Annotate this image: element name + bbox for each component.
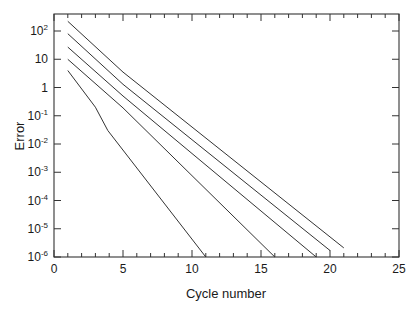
y-tick-label: 10-3 — [28, 164, 49, 179]
data-series — [68, 21, 344, 257]
plot-border — [54, 14, 399, 257]
y-tick-label: 10-2 — [28, 136, 49, 151]
x-tick-label: 20 — [323, 262, 337, 276]
x-tick-labels: 0510152025 — [51, 262, 406, 276]
y-tick-label: 10-4 — [28, 193, 49, 208]
series-line-5 — [68, 71, 206, 258]
series-line-3 — [68, 47, 316, 257]
error-vs-cycle-chart: 0510152025 10210110-110-210-310-410-510-… — [0, 0, 416, 309]
y-tick-label: 102 — [30, 23, 48, 38]
y-tick-label: 10-5 — [28, 221, 49, 236]
y-tick-label: 1 — [41, 81, 48, 95]
y-tick-labels: 10210110-110-210-310-410-510-6 — [28, 23, 49, 264]
y-tick-label: 10-1 — [28, 108, 49, 123]
y-axis-title: Error — [12, 121, 27, 151]
x-tick-label: 25 — [392, 262, 406, 276]
x-axis-title: Cycle number — [186, 286, 267, 301]
plot-frame — [54, 14, 399, 257]
series-line-1 — [68, 21, 344, 248]
series-line-2 — [68, 34, 330, 251]
x-tick-label: 10 — [185, 262, 199, 276]
y-tick-label: 10-6 — [28, 249, 49, 264]
y-tick-label: 10 — [35, 52, 49, 66]
series-line-4 — [68, 59, 275, 257]
x-tick-label: 15 — [254, 262, 268, 276]
x-tick-label: 5 — [120, 262, 127, 276]
x-tick-label: 0 — [51, 262, 58, 276]
axis-ticks — [54, 14, 399, 257]
